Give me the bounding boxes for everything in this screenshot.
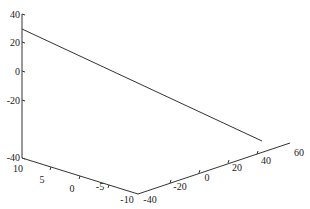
y-tick-label: 5 (40, 174, 45, 185)
y-tick-label: 0 (70, 183, 75, 194)
x-tick-label: -40 (143, 194, 156, 205)
x-tick-label: 20 (232, 162, 242, 173)
x-ticks (170, 151, 258, 183)
x-axis (138, 143, 290, 194)
z-tick-label: 40 (10, 9, 20, 20)
x-tick-label: 40 (261, 155, 271, 166)
x-tick-label: 0 (205, 172, 210, 183)
z-tick-label: -40 (7, 152, 20, 163)
z-tick-label: 0 (15, 66, 20, 77)
y-tick-label: -5 (96, 181, 104, 192)
z-tick-label: 20 (10, 37, 20, 48)
x-tick-label: 60 (294, 147, 304, 158)
y-tick-label: -10 (120, 194, 133, 205)
3d-line-chart: 40 20 0 -20 -40 10 5 0 -5 -10 -40 -20 0 … (0, 0, 310, 209)
z-tick-label: -20 (7, 95, 20, 106)
y-tick-label: 10 (13, 163, 23, 174)
data-line (22, 29, 262, 141)
x-tick-label: -20 (173, 181, 186, 192)
